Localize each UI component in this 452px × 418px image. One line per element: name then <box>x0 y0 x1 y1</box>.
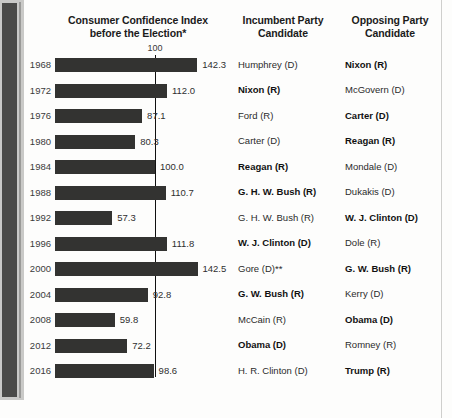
table-row: 198080.3Carter (D)Reagan (R) <box>0 132 452 157</box>
opposing-candidate: Kerry (D) <box>345 288 384 299</box>
opposing-candidate: Reagan (R) <box>345 135 395 146</box>
incumbent-candidate: Nixon (R) <box>238 84 280 95</box>
bar <box>55 211 112 225</box>
bar <box>55 237 167 251</box>
chart-column-header: Consumer Confidence Index before the Ele… <box>48 14 228 40</box>
chart-column-header-line2: before the Election* <box>48 27 228 40</box>
row-year-label: 1976 <box>20 110 51 121</box>
row-year-label: 1988 <box>20 187 51 198</box>
bar-value-label: 72.2 <box>132 340 151 351</box>
table-row: 1984100.0Reagan (R)Mondale (D) <box>0 157 452 182</box>
row-year-label: 1968 <box>20 59 51 70</box>
table-row: 199257.3G. H. W. Bush (R)W. J. Clinton (… <box>0 208 452 233</box>
incumbent-candidate: Carter (D) <box>238 135 280 146</box>
table-row: 200859.8McCain (R)Obama (D) <box>0 310 452 335</box>
opposing-candidate: Carter (D) <box>345 110 389 121</box>
opposing-column-header: Opposing Party Candidate <box>336 14 444 40</box>
bar-value-label: 112.0 <box>172 85 195 96</box>
row-year-label: 1984 <box>20 161 51 172</box>
bar-value-label: 59.8 <box>120 314 139 325</box>
incumbent-candidate: Obama (D) <box>238 339 286 350</box>
bar <box>55 364 154 378</box>
table-row: 201698.6H. R. Clinton (D)Trump (R) <box>0 361 452 386</box>
bar-value-label: 100.0 <box>160 161 184 172</box>
incumbent-candidate: G. W. Bush (R) <box>238 288 304 299</box>
reference-line-label: 100 <box>135 43 175 53</box>
incumbent-candidate: Gore (D)** <box>238 263 282 274</box>
row-year-label: 2016 <box>20 365 51 376</box>
bar-value-label: 92.8 <box>153 289 172 300</box>
bar <box>55 84 167 98</box>
opposing-candidate: Dukakis (D) <box>345 186 395 197</box>
bar <box>55 288 148 302</box>
bar <box>55 313 115 327</box>
incumbent-candidate: G. H. W. Bush (R) <box>238 212 314 223</box>
bar-value-label: 142.5 <box>203 263 227 274</box>
bar <box>55 262 198 276</box>
opposing-candidate: W. J. Clinton (D) <box>345 212 418 223</box>
incumbent-candidate: H. R. Clinton (D) <box>238 365 308 376</box>
incumbent-candidate: McCain (R) <box>238 314 286 325</box>
table-row: 197687.1Ford (R)Carter (D) <box>0 106 452 131</box>
bar <box>55 109 142 123</box>
bar <box>55 135 135 149</box>
table-row: 1996111.8W. J. Clinton (D)Dole (R) <box>0 234 452 259</box>
row-year-label: 1972 <box>20 85 51 96</box>
table-row: 1968142.3Humphrey (D)Nixon (R) <box>0 55 452 80</box>
row-year-label: 2012 <box>20 340 51 351</box>
row-year-label: 2004 <box>20 289 51 300</box>
bar-value-label: 87.1 <box>147 110 166 121</box>
incumbent-candidate: Ford (R) <box>238 110 273 121</box>
chart-column-header-line1: Consumer Confidence Index <box>48 14 228 27</box>
opposing-candidate: Obama (D) <box>345 314 393 325</box>
row-year-label: 1996 <box>20 238 51 249</box>
opposing-column-header-line1: Opposing Party <box>336 14 444 27</box>
row-year-label: 2000 <box>20 263 51 274</box>
bar-value-label: 110.7 <box>171 187 194 198</box>
table-row: 201272.2Obama (D)Romney (R) <box>0 336 452 361</box>
bar <box>55 58 197 72</box>
bar <box>55 339 127 353</box>
incumbent-candidate: Reagan (R) <box>238 161 288 172</box>
row-year-label: 1980 <box>20 136 51 147</box>
incumbent-column-header-line1: Incumbent Party <box>228 14 338 27</box>
bar-value-label: 98.6 <box>159 365 178 376</box>
opposing-candidate: Dole (R) <box>345 237 380 248</box>
opposing-candidate: Mondale (D) <box>345 161 397 172</box>
table-row: 1988110.7G. H. W. Bush (R)Dukakis (D) <box>0 183 452 208</box>
opposing-candidate: Nixon (R) <box>345 59 387 70</box>
bar-value-label: 80.3 <box>140 136 159 147</box>
bar-value-label: 142.3 <box>202 59 226 70</box>
incumbent-candidate: G. H. W. Bush (R) <box>238 186 316 197</box>
bar <box>55 186 166 200</box>
opposing-candidate: McGovern (D) <box>345 84 405 95</box>
bar-value-label: 111.8 <box>172 238 194 249</box>
incumbent-column-header-line2: Candidate <box>228 27 338 40</box>
row-year-label: 1992 <box>20 212 51 223</box>
bar <box>55 160 155 174</box>
incumbent-candidate: W. J. Clinton (D) <box>238 237 311 248</box>
opposing-candidate: G. W. Bush (R) <box>345 263 411 274</box>
incumbent-column-header: Incumbent Party Candidate <box>228 14 338 40</box>
bar-value-label: 57.3 <box>117 212 136 223</box>
table-row: 1972112.0Nixon (R)McGovern (D) <box>0 81 452 106</box>
incumbent-candidate: Humphrey (D) <box>238 59 298 70</box>
opposing-column-header-line2: Candidate <box>336 27 444 40</box>
table-row: 200492.8G. W. Bush (R)Kerry (D) <box>0 285 452 310</box>
opposing-candidate: Trump (R) <box>345 365 390 376</box>
chart-page: Consumer Confidence Index before the Ele… <box>0 0 452 418</box>
row-year-label: 2008 <box>20 314 51 325</box>
opposing-candidate: Romney (R) <box>345 339 396 350</box>
table-row: 2000142.5Gore (D)**G. W. Bush (R) <box>0 259 452 284</box>
